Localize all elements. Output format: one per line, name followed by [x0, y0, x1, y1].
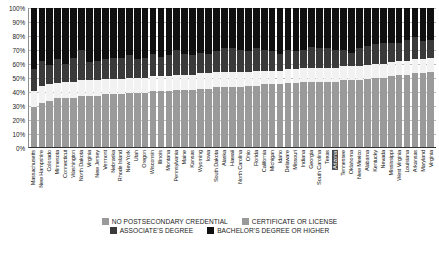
- x-axis-label-south-carolina: South Carolina: [316, 150, 322, 185]
- bar-segment: [86, 96, 93, 147]
- x-axis-label-delaware: Delaware: [284, 150, 290, 172]
- bar-segment: [285, 83, 292, 147]
- bar-segment: [54, 59, 61, 83]
- x-axis-label-new-york: New York: [125, 150, 131, 172]
- bar-segment: [62, 8, 69, 64]
- bar-segment: [189, 75, 196, 90]
- bar-segment: [372, 78, 379, 148]
- bar-segment: [39, 86, 46, 103]
- bar-column: [293, 8, 300, 147]
- bar-segment: [285, 50, 292, 69]
- bar-segment: [245, 8, 252, 51]
- bar-segment: [39, 103, 46, 147]
- x-axis-label-oregon: Oregon: [141, 150, 147, 168]
- bar-segment: [420, 59, 427, 73]
- bar-segment: [388, 8, 395, 43]
- legend-swatch-icon: [207, 227, 214, 234]
- legend-swatch-icon: [102, 218, 109, 225]
- bar-segment: [253, 86, 260, 147]
- bar-segment: [126, 8, 133, 55]
- legend-item[interactable]: BACHELOR'S DEGREE OR HIGHER: [207, 227, 329, 234]
- bar-segment: [86, 8, 93, 62]
- x-axis-label-utah: Utah: [133, 150, 139, 161]
- stacked-bar-chart: 100%90%80%70%60%50%40%30%20%10%0% Massac…: [0, 0, 439, 263]
- bar-segment: [62, 82, 69, 99]
- x-axis-label-cell: Virginia: [427, 150, 434, 212]
- y-axis-tick-80: 80%: [13, 33, 26, 40]
- bar-segment: [269, 84, 276, 147]
- bar-segment: [324, 82, 331, 147]
- bar-segment: [332, 50, 339, 68]
- bar-segment: [213, 87, 220, 147]
- bar-segment: [118, 58, 125, 79]
- legend-item[interactable]: NO POSTSECONDARY CREDENTIAL: [102, 218, 228, 225]
- x-axis-label-cell: Minnesota: [53, 150, 60, 212]
- bar-segment: [364, 79, 371, 147]
- bar-segment: [324, 8, 331, 48]
- x-axis-label-alabama: Alabama: [364, 150, 370, 171]
- bar-column: [205, 8, 212, 147]
- bar-segment: [142, 78, 149, 93]
- bar-segment: [110, 8, 117, 58]
- x-axis-label-cell: Louisiana: [403, 150, 410, 212]
- bar-segment: [31, 107, 38, 147]
- x-axis-label-cell: Maryland: [419, 150, 426, 212]
- bar-column: [300, 8, 307, 147]
- x-axis-label-michigan: Michigan: [269, 150, 275, 171]
- bar-column: [340, 8, 347, 147]
- bar-column: [118, 8, 125, 147]
- bar-segment: [380, 8, 387, 43]
- x-axis-label-cell: Kentucky: [372, 150, 379, 212]
- bar-segment: [316, 8, 323, 48]
- x-axis-label-georgia: Georgia: [308, 150, 314, 169]
- x-axis-label-cell: Colorado: [46, 150, 53, 212]
- bar-segment: [420, 73, 427, 147]
- bar-segment: [173, 90, 180, 147]
- bar-segment: [348, 8, 355, 52]
- legend-label: CERTIFICATE OR LICENSE: [252, 218, 338, 225]
- bar-segment: [31, 69, 38, 91]
- bar-segment: [356, 66, 363, 80]
- bar-segment: [31, 91, 38, 106]
- legend-item[interactable]: CERTIFICATE OR LICENSE: [242, 218, 338, 225]
- x-axis-label-cell: Ohio: [244, 150, 251, 212]
- bar-column: [380, 8, 387, 147]
- bar-segment: [340, 50, 347, 67]
- bar-segment: [427, 72, 434, 147]
- x-axis-label-cell: Mississippi: [387, 150, 394, 212]
- x-axis-label-cell: New Mexico: [356, 150, 363, 212]
- bar-segment: [412, 37, 419, 59]
- legend-item[interactable]: ASSOCIATE'S DEGREE: [110, 227, 194, 234]
- bar-segment: [166, 76, 173, 91]
- bar-segment: [277, 71, 284, 85]
- x-axis-label-hawaii: Hawaii: [229, 150, 235, 166]
- bar-segment: [388, 62, 395, 76]
- x-axis-label-connecticut: Connecticut: [62, 150, 68, 178]
- bar-column: [388, 8, 395, 147]
- x-axis-label-cell: Indiana: [300, 150, 307, 212]
- x-axis-label-cell: California: [260, 150, 267, 212]
- bar-segment: [54, 8, 61, 59]
- x-axis-label-tennessee: Tennessee: [340, 150, 346, 176]
- bar-segment: [54, 83, 61, 98]
- bar-column: [213, 8, 220, 147]
- bar-segment: [134, 8, 141, 59]
- bar-segment: [285, 69, 292, 83]
- bar-column: [181, 8, 188, 147]
- bar-column: [78, 8, 85, 147]
- bar-segment: [166, 8, 173, 55]
- bar-segment: [205, 73, 212, 88]
- bar-segment: [396, 43, 403, 61]
- bar-segment: [340, 66, 347, 80]
- bar-column: [126, 8, 133, 147]
- x-axis-label-colorado: Colorado: [46, 150, 52, 172]
- bar-column: [356, 8, 363, 147]
- bar-segment: [308, 82, 315, 147]
- bar-segment: [253, 48, 260, 70]
- bar-column: [110, 8, 117, 147]
- y-axis-tick-60: 60%: [13, 61, 26, 68]
- bar-segment: [364, 46, 371, 65]
- x-axis-label-new-mexico: New Mexico: [356, 150, 362, 179]
- bar-segment: [404, 75, 411, 147]
- bar-segment: [324, 68, 331, 82]
